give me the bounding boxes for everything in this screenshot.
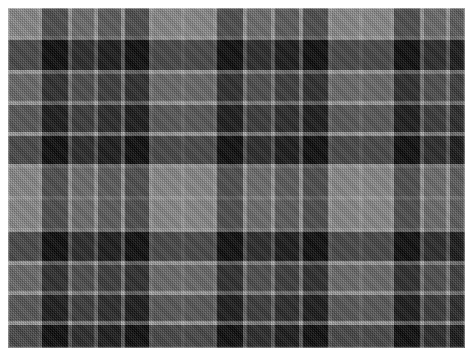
weft-band [8,40,465,70]
image-canvas: A rectangular swatch of grayscale tartan… [0,0,473,356]
weft-band [8,265,465,291]
weft-band [8,232,465,261]
weft-band [8,105,465,132]
weft-band [8,325,465,348]
tartan-swatch [8,8,465,348]
weft-band [8,74,465,101]
weft-band [8,8,465,36]
weft-band [8,136,465,164]
weft-band [8,200,465,228]
weft-band [8,295,465,321]
weft-band [8,168,465,196]
weft-band-layer [8,8,465,348]
